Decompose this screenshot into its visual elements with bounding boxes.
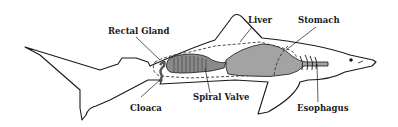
label-spiral-valve: Spiral Valve: [193, 93, 249, 102]
eye: [349, 58, 353, 62]
shark-anatomy-diagram: Rectal Gland Liver Stomach Cloaca Spiral…: [0, 0, 398, 127]
label-liver: Liver: [248, 16, 272, 25]
label-cloaca: Cloaca: [130, 104, 162, 113]
label-stomach: Stomach: [298, 16, 340, 25]
label-rectal-gland: Rectal Gland: [108, 27, 169, 36]
label-esophagus: Esophagus: [297, 104, 348, 113]
